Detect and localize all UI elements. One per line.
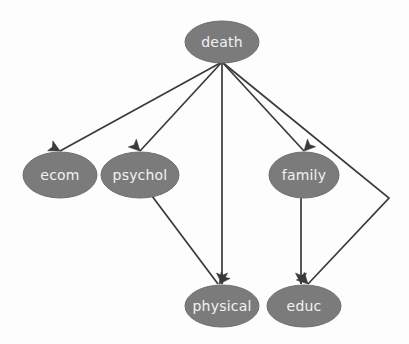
edge-psychol-to-physical xyxy=(152,196,218,284)
diagram-svg: deathecompsycholfamilyphysicaleduc xyxy=(0,0,409,344)
node-physical-label: physical xyxy=(193,298,252,314)
edge-death-to-ecom xyxy=(60,62,222,151)
edge-death-to-psychol xyxy=(140,62,222,151)
node-family[interactable]: family xyxy=(269,152,339,198)
node-ecom[interactable]: ecom xyxy=(23,152,97,198)
node-educ[interactable]: educ xyxy=(267,285,341,327)
edge-death-to-family xyxy=(222,62,304,151)
node-layer: deathecompsycholfamilyphysicaleduc xyxy=(23,21,341,327)
diagram-canvas: deathecompsycholfamilyphysicaleduc xyxy=(0,0,409,344)
node-educ-label: educ xyxy=(287,298,322,314)
node-physical[interactable]: physical xyxy=(185,285,259,327)
node-ecom-label: ecom xyxy=(40,167,79,183)
node-family-label: family xyxy=(282,167,326,183)
node-death-label: death xyxy=(201,34,242,50)
node-psychol-label: psychol xyxy=(113,167,168,183)
node-death[interactable]: death xyxy=(185,21,259,63)
node-psychol[interactable]: psychol xyxy=(101,152,179,198)
